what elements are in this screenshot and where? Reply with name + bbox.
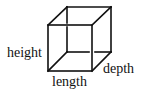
cube-diagram: height length depth — [0, 0, 142, 92]
cube-top-left-edge — [48, 7, 67, 25]
cube-hidden-diagonal — [48, 52, 67, 71]
length-label: length — [52, 75, 87, 89]
cube-top-right-edge — [92, 7, 111, 25]
depth-label: depth — [103, 62, 134, 76]
height-label: height — [7, 46, 42, 60]
